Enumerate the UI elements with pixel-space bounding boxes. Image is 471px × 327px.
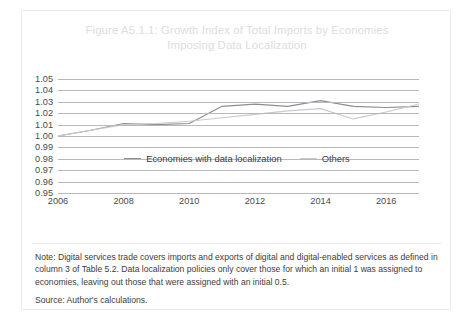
chart-legend: Economies with data localizationOthers <box>22 153 452 164</box>
legend-swatch-icon <box>124 158 141 160</box>
legend-item[interactable]: Others <box>300 153 350 164</box>
y-axis-tick-label: 1.05 <box>35 74 53 84</box>
y-axis-tick-label: 1.01 <box>35 120 53 130</box>
note-separator <box>32 243 442 244</box>
chart-area: 1.051.041.031.021.011.000.990.980.970.96… <box>22 69 452 227</box>
figure-title-line-2: Imposing Data Localization <box>22 38 452 53</box>
series-line <box>58 101 419 136</box>
figure-source: Source: Author's calculations. <box>35 294 440 306</box>
y-axis-tick-label: 1.00 <box>35 131 53 141</box>
legend-label: Others <box>322 153 350 164</box>
gridline: 1.03 <box>58 102 419 103</box>
y-axis-tick-label: 1.02 <box>35 108 53 118</box>
figure-page: Figure A5.1.1: Growth Index of Total Imp… <box>0 0 471 327</box>
x-axis-tick-label: 2010 <box>179 196 199 206</box>
legend-swatch-icon <box>300 158 317 160</box>
gridline: 1.04 <box>58 90 419 91</box>
figure-title: Figure A5.1.1: Growth Index of Total Imp… <box>22 23 452 53</box>
figure-title-line-1: Figure A5.1.1: Growth Index of Total Imp… <box>22 23 452 38</box>
x-axis-tick-label: 2008 <box>113 196 133 206</box>
x-axis-tick-label: 2012 <box>245 196 265 206</box>
y-axis-tick-label: 1.03 <box>35 97 53 107</box>
series-line <box>58 104 419 136</box>
gridline: 1.05 <box>58 79 419 80</box>
gridline: 0.97 <box>58 170 419 171</box>
gridline: 1.02 <box>58 113 419 114</box>
y-axis-tick-label: 0.96 <box>35 177 53 187</box>
legend-label: Economies with data localization <box>146 153 282 164</box>
x-axis-tick-label: 2016 <box>376 196 396 206</box>
gridline: 1.00 <box>58 136 419 137</box>
figure-container: Figure A5.1.1: Growth Index of Total Imp… <box>21 10 451 310</box>
plot-region: 1.051.041.031.021.011.000.990.980.970.96… <box>58 79 419 193</box>
y-axis-tick-label: 1.04 <box>35 85 53 95</box>
figure-note: Note: Digital services trade covers impo… <box>35 251 440 288</box>
x-axis-tick-label: 2006 <box>48 196 68 206</box>
y-axis-tick-label: 0.97 <box>35 165 53 175</box>
gridline: 1.01 <box>58 125 419 126</box>
legend-item[interactable]: Economies with data localization <box>124 153 282 164</box>
y-axis-tick-label: 0.99 <box>35 142 53 152</box>
gridline: 0.99 <box>58 147 419 148</box>
gridline: 0.95 <box>58 193 419 194</box>
x-axis-tick-label: 2014 <box>310 196 330 206</box>
gridline: 0.96 <box>58 182 419 183</box>
